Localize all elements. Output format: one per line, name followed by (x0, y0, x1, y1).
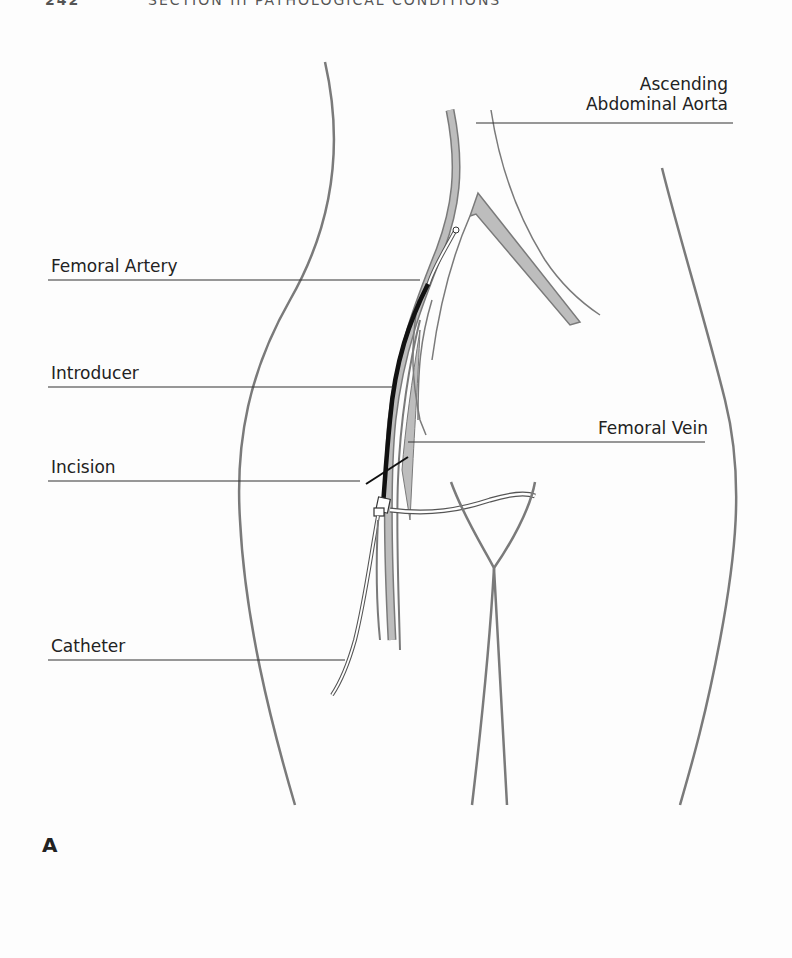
panel-label: A (42, 833, 57, 857)
label-ascending-line1: Ascending (540, 74, 728, 94)
label-incision: Incision (51, 457, 116, 477)
inner-thigh-right (494, 482, 535, 805)
femoral-artery-inner (418, 300, 432, 420)
iliac-branch (470, 193, 580, 325)
catheter-tube (332, 516, 378, 695)
guidewire-tip (453, 227, 459, 233)
label-introducer: Introducer (51, 363, 139, 383)
right-body-outline (662, 168, 736, 805)
label-catheter: Catheter (51, 636, 125, 656)
label-ascending-line2: Abdominal Aorta (540, 94, 728, 114)
anatomical-illustration (0, 0, 792, 958)
thigh-line-left (377, 520, 380, 640)
inner-thigh-left (451, 482, 494, 805)
label-femoral-vein: Femoral Vein (560, 418, 708, 438)
left-body-outline (239, 62, 334, 805)
page: 242 SECTION III PATHOLOGICAL CONDITIONS (0, 0, 792, 958)
label-femoral-artery: Femoral Artery (51, 256, 178, 276)
label-ascending-aorta: Ascending Abdominal Aorta (540, 74, 728, 114)
